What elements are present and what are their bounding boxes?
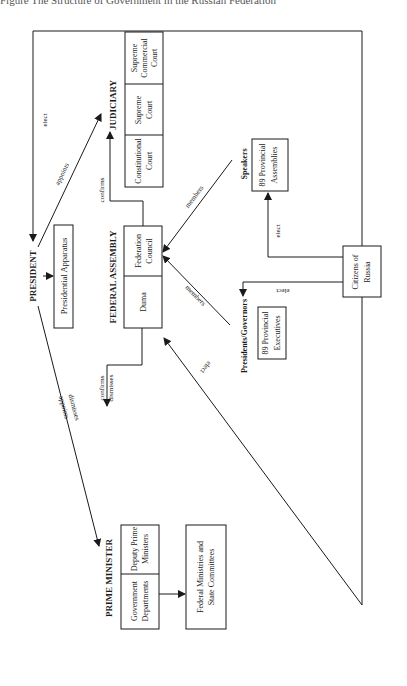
svg-text:Federation: Federation: [134, 234, 143, 268]
svg-text:Citizens of: Citizens of: [351, 254, 360, 289]
edge-governors-members-council: members: [163, 256, 230, 325]
svg-text:State Committees: State Committees: [207, 549, 216, 606]
speakers-title: Speakers: [240, 148, 249, 179]
edge-duma-prime-minister: confirms dismisses: [98, 328, 142, 406]
governors-title: Presidents/Governors: [240, 299, 249, 373]
edge-label-dismisses-pm-duma: dismisses: [107, 374, 115, 401]
prime-minister-box: [121, 525, 159, 629]
judiciary-title: JUDICIARY: [108, 79, 118, 130]
federal-assembly-title: FEDERAL ASSEMBLY: [108, 230, 118, 323]
svg-text:Supreme: Supreme: [134, 95, 143, 124]
edge-speakers-members-council: members: [163, 160, 232, 252]
edge-label-members-speakers: members: [183, 184, 205, 210]
speakers-node: Speakers 89 Provincial Assemblies: [240, 139, 288, 191]
judiciary-node: JUDICIARY Constitutional Court Supreme C…: [108, 32, 163, 187]
citizens-box: [343, 246, 381, 297]
svg-text:Departments: Departments: [141, 581, 150, 622]
federal-ministries-box: [186, 525, 226, 629]
svg-text:89 Provincial: 89 Provincial: [258, 143, 267, 187]
svg-text:Court: Court: [145, 151, 154, 170]
government-structure-diagram: elect elect PRESIDENT Presidential Appar…: [0, 0, 407, 686]
svg-text:Supreme: Supreme: [130, 43, 139, 72]
edge-label-members-governors: members: [184, 284, 208, 308]
svg-text:Court: Court: [145, 100, 154, 119]
president-title: PRESIDENT: [28, 250, 38, 302]
citizens-node: Citizens of Russia: [343, 246, 381, 297]
prime-minister-node: PRIME MINISTER Deputy Prime Ministers Go…: [104, 525, 159, 629]
president-node: PRESIDENT: [28, 250, 38, 302]
edge-citizens-elect-assemblies: elect: [268, 193, 343, 257]
edge-label-confirms-judiciary: confirms: [98, 177, 106, 202]
svg-text:Council: Council: [145, 238, 154, 264]
svg-text:Assemblies: Assemblies: [270, 147, 279, 184]
edge-label-confirms-pm: confirms: [98, 375, 106, 400]
presidential-apparatus-label: Presidential Apparatus: [59, 238, 69, 315]
svg-text:Court: Court: [150, 48, 159, 67]
svg-text:Deputy Prime: Deputy Prime: [130, 526, 139, 571]
edge-label-elect-governors: elect: [276, 287, 289, 295]
federal-ministries-node: Federal Ministries and State Committees: [186, 525, 226, 629]
svg-text:Commercial: Commercial: [140, 37, 149, 77]
svg-text:Constitutional: Constitutional: [134, 138, 143, 184]
prime-minister-title: PRIME MINISTER: [104, 539, 114, 617]
edge-label-elect-assemblies: elect: [274, 224, 282, 237]
edge-citizens-elect-governors: elect: [243, 282, 343, 296]
governors-node: Presidents/Governors 89 Provincial Execu…: [240, 299, 286, 373]
edge-label-elect-president: elect: [41, 113, 49, 126]
edge-label-elect-duma: elect: [198, 360, 212, 375]
duma: Duma: [139, 292, 148, 312]
svg-text:Government: Government: [130, 580, 139, 621]
edge-citizens-elect-president: elect: [33, 31, 362, 246]
svg-text:Federal Ministries and: Federal Ministries and: [196, 541, 205, 613]
svg-text:89 Provincial: 89 Provincial: [261, 311, 270, 355]
svg-text:Russia: Russia: [363, 261, 372, 283]
federal-assembly-node: FEDERAL ASSEMBLY Duma Federation Council: [108, 226, 162, 328]
svg-text:Duma: Duma: [139, 292, 148, 312]
presidential-apparatus-box: Presidential Apparatus: [54, 225, 73, 328]
svg-text:Ministers: Ministers: [141, 534, 150, 564]
edge-president-prime-minister: appoints dismisses: [38, 306, 99, 546]
svg-text:Executives: Executives: [273, 315, 282, 350]
